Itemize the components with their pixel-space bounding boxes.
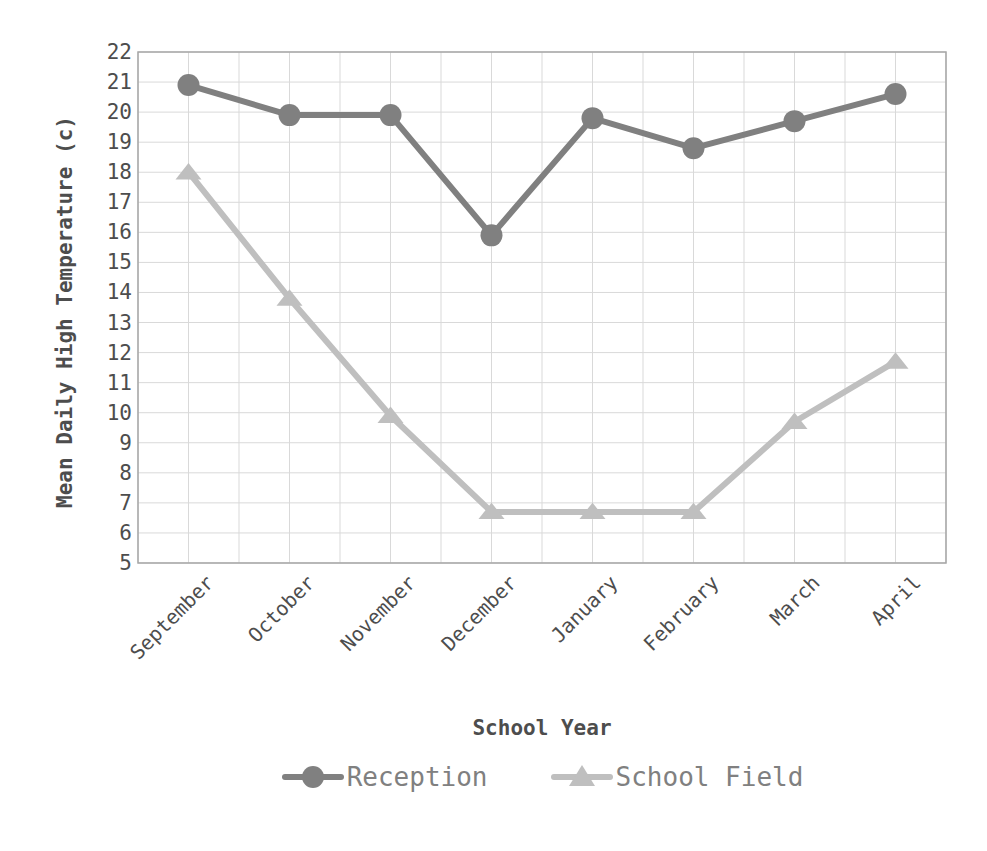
data-point-marker-circle [582, 107, 604, 129]
data-point-marker-circle [481, 224, 503, 246]
legend-triangle-icon [550, 762, 614, 792]
data-point-marker-circle [784, 110, 806, 132]
grid-lines [138, 52, 946, 563]
data-point-marker-circle [885, 83, 907, 105]
data-point-marker-circle [380, 104, 402, 126]
data-point-marker-circle [279, 104, 301, 126]
x-axis-title: School Year [138, 716, 946, 740]
legend-label: School Field [616, 762, 804, 792]
line-chart: Mean Daily High Temperature (c) 56789101… [0, 0, 987, 851]
legend-label: Reception [347, 762, 488, 792]
data-point-marker-triangle [176, 163, 202, 179]
legend-entry[interactable]: Reception [281, 762, 488, 792]
legend-entry[interactable]: School Field [550, 762, 804, 792]
chart-legend: ReceptionSchool Field [138, 762, 946, 792]
data-point-marker-circle [178, 74, 200, 96]
data-point-marker-triangle [883, 352, 909, 368]
data-point-marker-circle [683, 137, 705, 159]
legend-circle-icon [281, 762, 345, 792]
